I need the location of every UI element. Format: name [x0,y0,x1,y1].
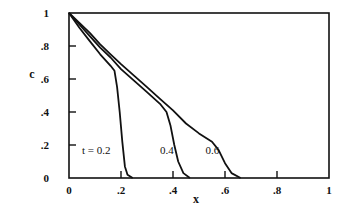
curve-label: 0.4 [160,144,174,156]
x-axis-label: x [193,192,199,206]
curve-labels: t = 0.20.40.6 [82,144,220,156]
x-tick-label: .2 [117,184,126,196]
chart: 0.2.4.6.810.2.4.6.81 t = 0.20.40.6 x c [0,0,346,211]
x-tick-label: 0 [66,184,72,196]
curve-label: 0.6 [206,144,220,156]
y-tick-label: .2 [41,139,50,151]
curve-label: t = 0.2 [82,144,111,156]
x-tick-label: 1 [326,184,332,196]
y-tick-label: 1 [44,7,50,19]
x-tick-label: .4 [169,184,178,196]
y-tick-label: 0 [44,172,50,184]
y-tick-label: .4 [41,106,50,118]
y-tick-label: .8 [41,40,50,52]
y-axis-label: c [29,67,35,81]
y-tick-label: .6 [41,73,50,85]
x-tick-label: .6 [221,184,230,196]
x-tick-label: .8 [273,184,282,196]
